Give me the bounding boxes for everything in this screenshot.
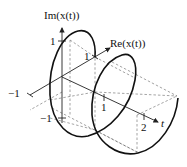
re-tick-neg-label: −1: [8, 87, 20, 99]
im-tick-pos-label: 1: [50, 35, 56, 47]
t-tick-2-label: 2: [141, 121, 147, 133]
t-tick-1-label: 1: [101, 101, 107, 113]
re-tick-pos-label: 1: [84, 50, 90, 62]
im-tick-neg-label: −1: [40, 112, 52, 124]
re-axis-label: Re(x(t)): [110, 37, 146, 50]
t-axis-label: t: [161, 117, 165, 129]
helix-curve: [50, 31, 178, 154]
im-axis-label: Im(x(t)): [44, 9, 80, 22]
helix-diagram: Im(x(t)) Re(x(t)) t 1 −1 1 −1 1 2: [0, 0, 187, 167]
